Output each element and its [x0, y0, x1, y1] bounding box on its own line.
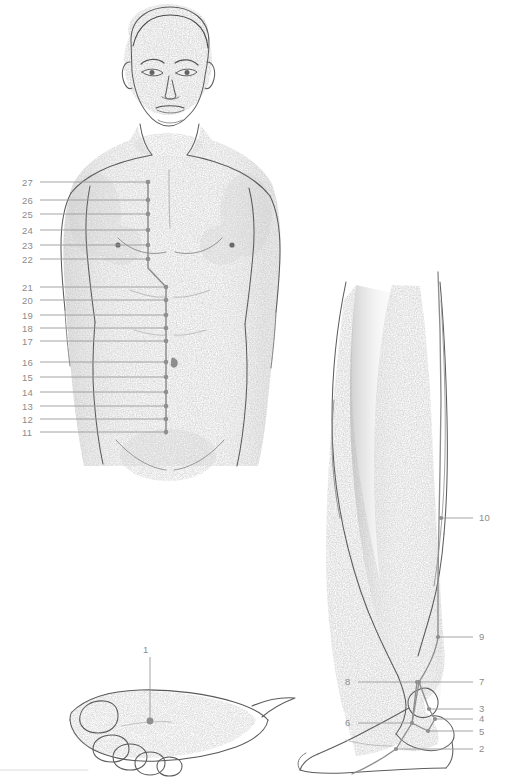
acupoint-dot-17[interactable] [164, 339, 169, 344]
acupoint-dot-27[interactable] [146, 180, 151, 185]
point-label-20[interactable]: 20 [22, 296, 33, 306]
acupoint-dot-6[interactable] [410, 721, 414, 725]
point-label-13[interactable]: 13 [22, 402, 33, 412]
acupoint-dot-20[interactable] [164, 298, 169, 303]
acupoint-dot-15[interactable] [164, 375, 169, 380]
point-label-19[interactable]: 19 [22, 311, 33, 321]
point-label-18[interactable]: 18 [22, 324, 33, 334]
point-label-7[interactable]: 7 [479, 677, 484, 687]
point-label-9[interactable]: 9 [479, 632, 484, 642]
acupoint-dot-11[interactable] [164, 430, 169, 435]
acupoint-dot-12[interactable] [164, 417, 169, 422]
point-label-21[interactable]: 21 [22, 283, 33, 293]
point-label-1[interactable]: 1 [143, 645, 148, 655]
point-label-8[interactable]: 8 [345, 677, 350, 687]
point-label-6[interactable]: 6 [345, 718, 350, 728]
acupoint-dot-21[interactable] [164, 285, 169, 290]
point-label-24[interactable]: 24 [22, 226, 33, 236]
point-label-27[interactable]: 27 [22, 178, 33, 188]
acupoint-dot-19[interactable] [164, 313, 169, 318]
acupoint-dot-2[interactable] [394, 747, 398, 751]
acupoint-dot-25[interactable] [146, 212, 151, 217]
point-label-22[interactable]: 22 [22, 255, 33, 265]
acupoint-dot-22[interactable] [146, 257, 151, 262]
acupoint-dot-8[interactable] [415, 680, 419, 684]
acupoint-dot-9[interactable] [436, 635, 440, 639]
point-label-2[interactable]: 2 [479, 744, 484, 754]
acupoint-dot-24[interactable] [146, 228, 151, 233]
acupoint-dot-13[interactable] [164, 404, 169, 409]
point-label-16[interactable]: 16 [22, 358, 33, 368]
point-label-26[interactable]: 26 [22, 196, 33, 206]
point-label-5[interactable]: 5 [479, 727, 484, 737]
anterior-body-view [61, 4, 281, 481]
acupoint-dot-1[interactable] [147, 718, 154, 725]
acupoint-dot-23[interactable] [146, 243, 151, 248]
point-label-15[interactable]: 15 [22, 373, 33, 383]
nipple-right-marker [229, 242, 234, 247]
point-label-23[interactable]: 23 [22, 241, 33, 251]
point-label-12[interactable]: 12 [22, 415, 33, 425]
point-label-11[interactable]: 11 [22, 428, 32, 438]
acupoint-dot-4[interactable] [433, 717, 437, 721]
sole-of-foot-view [0, 690, 295, 776]
anatomical-figure [0, 0, 507, 778]
acupoint-dot-26[interactable] [146, 198, 151, 203]
point-label-25[interactable]: 25 [22, 210, 33, 220]
acupoint-dot-14[interactable] [164, 390, 169, 395]
diagram-canvas: 2726252423222120191817161514131211110973… [0, 0, 507, 778]
acupoint-dot-5[interactable] [426, 729, 430, 733]
acupoint-dot-3[interactable] [427, 707, 431, 711]
acupoint-dot-18[interactable] [164, 326, 169, 331]
point-label-17[interactable]: 17 [22, 337, 33, 347]
acupoint-dot-16[interactable] [164, 360, 169, 365]
medial-leg-view [298, 282, 454, 773]
point-label-14[interactable]: 14 [22, 388, 33, 398]
point-label-10[interactable]: 10 [479, 513, 490, 523]
acupoint-dot-10[interactable] [439, 516, 443, 520]
point-label-4[interactable]: 4 [479, 714, 484, 724]
